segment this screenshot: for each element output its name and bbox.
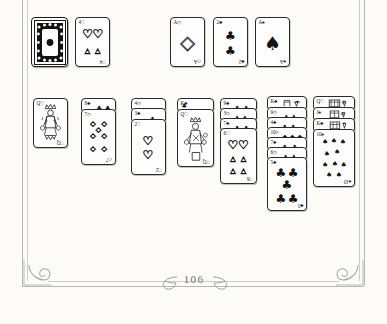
- page-number: 106: [174, 273, 214, 285]
- frame-line-left-inner: [27, 0, 28, 281]
- spade-pip: ♠: [340, 161, 346, 168]
- stock-pile-face-down[interactable]: [31, 17, 68, 67]
- tableau-column-4-top-card[interactable]: Q♡ ♡Q: [177, 109, 214, 167]
- diamond-pip: ◇: [101, 132, 106, 139]
- hearts-pip: ♡: [92, 31, 103, 38]
- leaf-flourish-right: [210, 275, 230, 295]
- queen-court-figure: [34, 99, 67, 147]
- diamond-pip: ◇: [101, 120, 106, 127]
- hearts-pip: △: [241, 156, 246, 163]
- hearts-pip: △: [230, 168, 235, 175]
- card-corner-label: 10◇: [271, 129, 280, 135]
- card-corner-label-bottom: ♡4: [100, 59, 106, 65]
- card-corner-label: 4◇: [135, 100, 141, 106]
- card-corner-label: 6♡: [224, 130, 230, 136]
- club-pip: ♣: [288, 195, 299, 202]
- spade-pip: ♠: [332, 160, 338, 167]
- spade-pip: ♠: [322, 139, 328, 146]
- tableau-column-7-top-card[interactable]: 10♠ ♠10 ♠ ♠ ♠ ♠ ♠ ♠ ♠ ♠ ♠ ♠: [313, 129, 355, 187]
- club-pip: ♣: [225, 32, 236, 39]
- tableau-column-1-top-card[interactable]: Q♡ ♡Q: [33, 98, 68, 148]
- card-corner-label-bottom: ♣5: [298, 203, 304, 209]
- frame-line-bottom-outer: [22, 286, 364, 287]
- diamond-pip: ◇: [90, 120, 95, 127]
- waste-pile-card[interactable]: 4♡ ♡4 ♡ ♡ △ △: [75, 17, 110, 67]
- club-pip: ♣: [225, 47, 236, 54]
- diamond-pip: ◇: [90, 132, 95, 139]
- foundation-pile-diamonds[interactable]: A◇ ◇A ◇: [170, 17, 205, 67]
- card-corner-label-bottom: ◇7: [106, 157, 112, 163]
- frame-line-left-outer: [22, 0, 23, 286]
- club-pip: ♣: [182, 102, 187, 109]
- tableau-column-5-top-card[interactable]: 6♡ ♡6 ♡ ♡ △ △ △ △: [220, 128, 257, 184]
- card-corner-label: 7◇: [85, 111, 91, 117]
- tableau-column-3-top-card[interactable]: 2♡ ♡2 ♡ ♡: [131, 119, 166, 175]
- scroll-spiral-ornament-right: [333, 258, 367, 292]
- card-corner-label: 10♠: [317, 131, 324, 137]
- spade-pip: ♠: [324, 150, 330, 157]
- foundation-pile-clubs[interactable]: 2♣ ♣2 ♣ ♣: [213, 17, 248, 67]
- club-pip: ♣: [282, 182, 293, 189]
- hearts-pip: ♡: [142, 137, 153, 144]
- hearts-pip: ♡: [82, 31, 93, 38]
- card-corner-label: 9♣: [224, 100, 230, 106]
- card-corner-label-bottom: ◇A: [194, 59, 201, 65]
- spade-pip: ♠: [336, 171, 342, 178]
- spade-pip: ♠: [326, 171, 332, 178]
- card-corner-label-bottom: ♠A: [280, 59, 286, 65]
- card-corner-label: 7♣: [271, 139, 277, 145]
- foundation-pile-spades[interactable]: A♠ ♠A ♠: [255, 17, 290, 67]
- diamond-pip: ◇: [96, 126, 101, 133]
- frame-line-right-outer: [364, 0, 365, 286]
- card-corner-label: 2♣: [217, 19, 223, 25]
- diamond-pip: ◇: [90, 146, 95, 153]
- book-page: 106: [0, 0, 387, 324]
- card-corner-label: 9◇: [271, 109, 277, 115]
- card-corner-label: A◇: [174, 19, 181, 25]
- hearts-pip: ♡: [228, 142, 239, 149]
- spade-pip: ♠: [331, 137, 337, 144]
- club-pip: ♣: [288, 169, 299, 176]
- card-corner-label: 4♣: [271, 119, 277, 125]
- card-corner-label: 4♡: [79, 19, 85, 25]
- hearts-pip: △: [85, 47, 90, 54]
- club-pip: ♣: [276, 169, 287, 176]
- card-corner-label-bottom: ♡6: [247, 176, 253, 182]
- hearts-pip: △: [95, 47, 100, 54]
- card-corner-label-bottom: ♡2: [156, 167, 162, 173]
- card-corner-label-bottom: ♠10: [344, 179, 351, 185]
- card-corner-label: 6◇: [271, 149, 277, 155]
- card-corner-label: 3◇: [224, 110, 230, 116]
- tableau-column-6-top-card[interactable]: 5♣ ♣5 ♣ ♣ ♣ ♣ ♣: [267, 157, 307, 211]
- spade-pip: ♠: [264, 39, 281, 46]
- spade-pip: ♠: [322, 161, 328, 168]
- diamond-pip: ◇: [180, 39, 195, 46]
- card-corner-label: 3♣: [135, 110, 141, 116]
- hearts-pip: ♡: [142, 151, 153, 158]
- card-corner-label: A♠: [259, 19, 265, 25]
- spade-pip: ♠: [340, 139, 346, 146]
- hearts-pip: △: [230, 156, 235, 163]
- card-corner-label: 8♣: [85, 100, 91, 106]
- diamond-pip: ◇: [101, 146, 106, 153]
- hearts-pip: ♡: [238, 142, 249, 149]
- scroll-spiral-ornament-left: [20, 258, 54, 292]
- queen-court-figure: [178, 110, 213, 166]
- frame-line-right-inner: [359, 0, 360, 281]
- card-corner-label: 7♣: [224, 120, 230, 126]
- tableau-column-2-top-card[interactable]: 7◇ ◇7 ◇ ◇ ◇ ◇ ◇ ◇ ◇: [81, 109, 116, 165]
- card-corner-label: 2♡: [135, 121, 141, 127]
- spade-pip: ♠: [334, 149, 340, 156]
- card-corner-label-bottom: ♣2: [239, 59, 245, 65]
- hearts-pip: △: [241, 168, 246, 175]
- club-pip: ♣: [276, 195, 287, 202]
